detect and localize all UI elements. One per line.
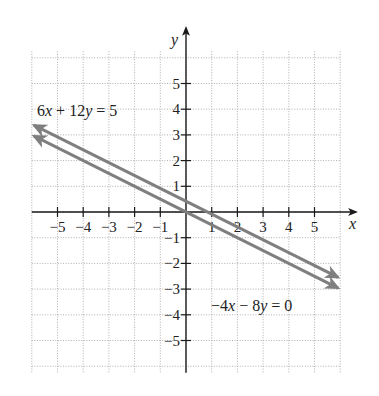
eq1-var-x: x	[44, 102, 52, 119]
eq1-mid: + 12	[52, 102, 85, 119]
eq2-var-x: x	[227, 297, 235, 314]
y-tick-label: 5	[173, 76, 181, 92]
y-tick-label: 3	[173, 127, 181, 143]
coordinate-plane-chart: −5−4−3−2−11234554321−1−2−3−4−5 x y 6x + …	[0, 0, 379, 396]
y-tick-label: −2	[164, 255, 180, 271]
equation-label-line2: −4x − 8y = 0	[211, 297, 292, 315]
x-tick-label: 3	[259, 219, 267, 235]
eq2-rhs: = 0	[267, 297, 292, 314]
x-tick-label: −4	[75, 219, 91, 235]
y-tick-label: 1	[173, 178, 181, 194]
y-axis-label: y	[169, 31, 179, 49]
y-tick-label: 4	[173, 101, 181, 117]
eq2-mid: − 8	[235, 297, 260, 314]
x-axis-label: x	[348, 215, 356, 232]
eq1-coef: 6	[37, 102, 45, 119]
y-tick-label: −1	[164, 230, 180, 246]
x-tick-label: −3	[101, 219, 117, 235]
y-tick-label: −5	[164, 333, 180, 349]
eq2-coef: −4	[211, 297, 228, 314]
y-tick-label: −3	[164, 281, 180, 297]
axes	[32, 28, 356, 373]
y-tick-label: −4	[164, 307, 180, 323]
equation-label-line1: 6x + 12y = 5	[37, 102, 117, 120]
x-tick-label: 5	[311, 219, 319, 235]
y-tick-label: 2	[173, 153, 181, 169]
x-tick-label: −5	[50, 219, 66, 235]
eq1-rhs: = 5	[92, 102, 117, 119]
x-tick-label: −2	[127, 219, 143, 235]
x-tick-label: 4	[285, 219, 293, 235]
